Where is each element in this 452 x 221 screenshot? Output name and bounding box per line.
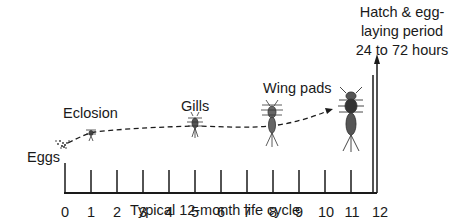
- tick-label: 1: [87, 204, 95, 220]
- hatch-note-line3: 24 to 72 hours: [352, 41, 452, 60]
- axis-ticks: [65, 163, 351, 193]
- hatch-note-line1: Hatch & egg-: [352, 3, 452, 22]
- tick-label: 0: [61, 204, 69, 220]
- tick-label: 10: [318, 204, 334, 220]
- tick-label: 2: [113, 204, 121, 220]
- wing-pad-nymph-icon: [261, 100, 283, 147]
- stage-label-eclosion: Eclosion: [63, 105, 118, 121]
- stage-label-gills: Gills: [181, 98, 209, 114]
- axis-title: Typical 12-month life cycle: [130, 202, 300, 218]
- tick-label: 12: [372, 204, 388, 220]
- tick-label: 11: [344, 204, 359, 220]
- stage-label-wing-pads: Wing pads: [263, 80, 332, 96]
- path-arrow-icon: [325, 108, 333, 114]
- hatch-note-line2: laying period: [352, 22, 452, 41]
- eggs-icon: [55, 140, 70, 149]
- mature-nymph-icon: [338, 87, 364, 152]
- gills-nymph-icon: [187, 112, 203, 138]
- hatch-period-note: Hatch & egg- laying period 24 to 72 hour…: [352, 3, 452, 60]
- stage-label-eggs: Eggs: [27, 149, 60, 165]
